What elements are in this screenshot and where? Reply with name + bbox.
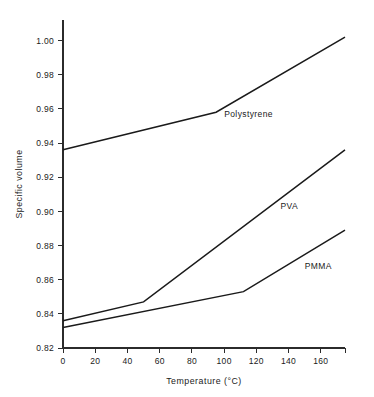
- series-label-polystyrene: Polystyrene: [224, 109, 273, 119]
- y-tick-label-4: 0.90: [36, 207, 54, 217]
- y-tick-label-8: 0.98: [36, 70, 54, 80]
- series-line-pva: [63, 150, 345, 321]
- y-axis-title: Specific volume: [14, 149, 24, 218]
- series-labels-group: PolystyrenePVAPMMA: [224, 109, 332, 271]
- x-tick-label-2: 40: [122, 356, 132, 366]
- series-label-pmma: PMMA: [305, 261, 332, 271]
- series-label-pva: PVA: [281, 201, 299, 211]
- y-tick-label-2: 0.86: [36, 275, 54, 285]
- chart-container: 0.820.840.860.880.900.920.940.960.981.00…: [0, 0, 374, 397]
- y-tick-label-5: 0.92: [36, 172, 54, 182]
- x-tick-label-1: 20: [90, 356, 100, 366]
- x-axis-ticks: 020406080100120140160: [60, 348, 345, 366]
- y-tick-label-9: 1.00: [36, 36, 54, 46]
- y-tick-label-3: 0.88: [36, 241, 54, 251]
- y-axis-ticks: 0.820.840.860.880.900.920.940.960.981.00: [36, 36, 63, 354]
- x-tick-label-3: 60: [155, 356, 165, 366]
- x-axis-title: Temperature (°C): [166, 376, 242, 386]
- x-tick-label-4: 80: [187, 356, 197, 366]
- y-tick-label-1: 0.84: [36, 309, 54, 319]
- x-tick-label-8: 160: [313, 356, 328, 366]
- data-series-group: [63, 37, 345, 327]
- x-tick-label-7: 140: [281, 356, 296, 366]
- y-tick-label-0: 0.82: [36, 343, 54, 353]
- x-tick-label-5: 100: [217, 356, 232, 366]
- series-line-polystyrene: [63, 37, 345, 150]
- series-line-pmma: [63, 230, 345, 327]
- y-tick-label-7: 0.96: [36, 104, 54, 114]
- x-tick-label-6: 120: [249, 356, 264, 366]
- x-tick-label-0: 0: [60, 356, 65, 366]
- y-tick-label-6: 0.94: [36, 138, 54, 148]
- specific-volume-vs-temperature-chart: 0.820.840.860.880.900.920.940.960.981.00…: [0, 0, 374, 397]
